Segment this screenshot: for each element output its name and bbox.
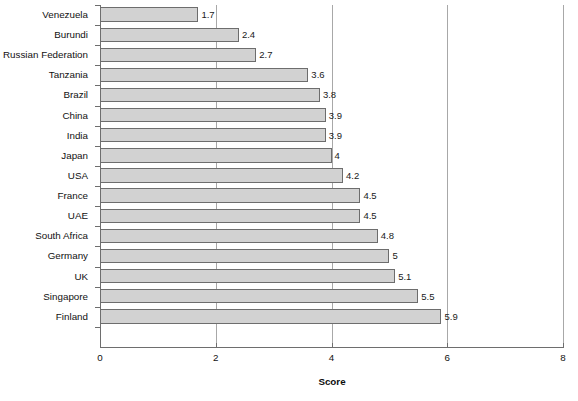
bar (100, 229, 378, 243)
category-label: South Africa (0, 226, 94, 246)
bar (100, 209, 360, 223)
x-axis-tick-label: 4 (329, 352, 334, 363)
y-axis-tick (95, 206, 100, 207)
bar (100, 168, 343, 182)
bar-row: 1.7 (100, 5, 563, 25)
bar-value-label: 4.5 (360, 188, 376, 203)
bar-row: 4.8 (100, 226, 563, 246)
y-axis-tick (95, 85, 100, 86)
bar-value-label: 5 (389, 248, 397, 263)
category-label: UAE (0, 206, 94, 226)
bar-value-label: 4.5 (360, 208, 376, 223)
bar (100, 148, 332, 162)
bar-row: 4 (100, 146, 563, 166)
y-axis-tick (95, 307, 100, 308)
bar-row: 2.7 (100, 45, 563, 65)
category-label: Russian Federation (0, 45, 94, 65)
y-axis-tick (95, 5, 100, 6)
bar (100, 289, 418, 303)
bar-row: 3.9 (100, 126, 563, 146)
y-axis-tick (95, 45, 100, 46)
x-axis-tick (216, 343, 217, 348)
bar-value-label: 4.8 (378, 228, 394, 243)
y-axis-tick (95, 226, 100, 227)
y-axis-tick (95, 186, 100, 187)
bar-row: 4.5 (100, 206, 563, 226)
x-axis-tick (563, 343, 564, 348)
category-label: France (0, 186, 94, 206)
bar-value-label: 3.9 (326, 108, 342, 123)
category-label: UK (0, 267, 94, 287)
category-label: USA (0, 166, 94, 186)
bar-row: 5.9 (100, 307, 563, 327)
category-label: Finland (0, 307, 94, 327)
bar-value-label: 3.8 (320, 87, 336, 102)
x-axis-tick-label: 8 (560, 352, 565, 363)
bar (100, 68, 308, 82)
bar-value-label: 5.9 (441, 309, 457, 324)
x-axis-tick-label: 0 (97, 352, 102, 363)
bar-chart: 1.72.42.73.63.83.93.944.24.54.54.855.15.… (0, 0, 578, 401)
bar-value-label: 5.5 (418, 289, 434, 304)
bar-value-label: 3.6 (308, 67, 324, 82)
x-axis-tick (332, 343, 333, 348)
bar-row: 5.5 (100, 287, 563, 307)
y-axis-tick (95, 246, 100, 247)
category-label: Brazil (0, 85, 94, 105)
bar (100, 128, 326, 142)
bar-row: 5.1 (100, 267, 563, 287)
bar (100, 188, 360, 202)
bar (100, 28, 239, 42)
y-axis-line (100, 5, 101, 348)
bar-value-label: 2.4 (239, 27, 255, 42)
plot-area: 1.72.42.73.63.83.93.944.24.54.54.855.15.… (100, 5, 563, 347)
y-axis-tick (95, 126, 100, 127)
y-axis-tick (95, 146, 100, 147)
category-label: Venezuela (0, 5, 94, 25)
bar-row: 3.6 (100, 65, 563, 85)
y-axis-tick (95, 25, 100, 26)
bar-row: 5 (100, 246, 563, 266)
x-axis-tick (447, 343, 448, 348)
y-axis-tick (95, 106, 100, 107)
y-axis-tick (95, 287, 100, 288)
bar-row: 4.5 (100, 186, 563, 206)
x-axis-tick (100, 343, 101, 348)
bar-value-label: 1.7 (198, 7, 214, 22)
bar (100, 269, 395, 283)
bar-row: 3.9 (100, 106, 563, 126)
x-axis-tick-label: 2 (213, 352, 218, 363)
bar (100, 88, 320, 102)
category-label: Japan (0, 146, 94, 166)
category-label: Tanzania (0, 65, 94, 85)
y-axis-tick (95, 267, 100, 268)
bar-value-label: 4 (332, 148, 340, 163)
category-label: India (0, 126, 94, 146)
y-axis-tick (95, 166, 100, 167)
bar-value-label: 4.2 (343, 168, 359, 183)
bar-value-label: 2.7 (256, 47, 272, 62)
bar-value-label: 3.9 (326, 128, 342, 143)
bar (100, 249, 389, 263)
bar (100, 7, 198, 21)
bar-row: 4.2 (100, 166, 563, 186)
category-label: China (0, 106, 94, 126)
category-axis-labels: VenezuelaBurundiRussian FederationTanzan… (0, 5, 94, 347)
gridline-8 (563, 5, 564, 347)
x-axis-tick-label: 6 (445, 352, 450, 363)
bar-row: 2.4 (100, 25, 563, 45)
category-label: Germany (0, 246, 94, 266)
y-axis-tick (95, 65, 100, 66)
x-axis-title: Score (100, 376, 564, 387)
bar (100, 108, 326, 122)
bar (100, 309, 441, 323)
bar-value-label: 5.1 (395, 269, 411, 284)
category-label: Burundi (0, 25, 94, 45)
y-axis-tick (95, 327, 100, 328)
category-label: Singapore (0, 287, 94, 307)
bar (100, 48, 256, 62)
bar-row: 3.8 (100, 85, 563, 105)
